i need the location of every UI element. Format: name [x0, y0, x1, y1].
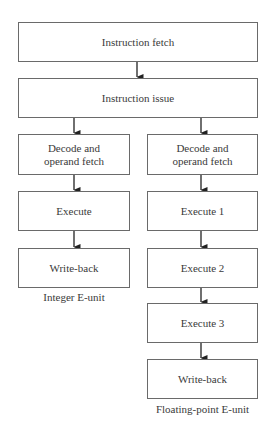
fp-execute1-label: Execute 1 [181, 205, 225, 218]
fp-writeback-box: Write-back [147, 359, 258, 399]
fp-execute3-box: Execute 3 [147, 303, 258, 343]
fp-unit-title: Floating-point E-unit [140, 403, 265, 415]
int-writeback-box: Write-back [18, 248, 130, 288]
fp-execute2-box: Execute 2 [147, 248, 258, 288]
fp-execute2-label: Execute 2 [181, 262, 225, 275]
int-writeback-label: Write-back [49, 262, 98, 275]
int-decode-label: Decode and operand fetch [44, 142, 104, 168]
fp-execute1-box: Execute 1 [147, 191, 258, 231]
instruction-issue-label: Instruction issue [102, 92, 174, 105]
fp-writeback-label: Write-back [178, 373, 227, 386]
fp-decode-box: Decode and operand fetch [147, 134, 258, 175]
fp-decode-label: Decode and operand fetch [172, 142, 232, 168]
instruction-issue-box: Instruction issue [18, 78, 258, 118]
int-execute-label: Execute [56, 205, 91, 218]
instruction-fetch-box: Instruction fetch [18, 22, 258, 62]
int-execute-box: Execute [18, 191, 130, 231]
fp-execute3-label: Execute 3 [181, 317, 225, 330]
integer-unit-title: Integer E-unit [18, 291, 130, 303]
int-decode-box: Decode and operand fetch [18, 134, 130, 175]
instruction-fetch-label: Instruction fetch [102, 36, 174, 49]
